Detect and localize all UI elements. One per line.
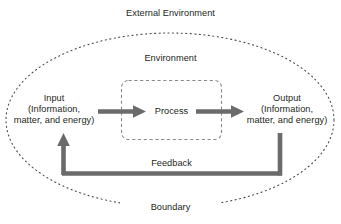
boundary-label: Boundary [120,202,221,213]
input-label-line-2: (Information, [0,104,108,115]
input-label: Input (Information, matter, and energy) [0,93,108,127]
output-label-line-1: Output [233,93,341,104]
input-label-line-1: Input [0,93,108,104]
output-label: Output (Information, matter, and energy) [233,93,341,127]
feedback-label: Feedback [121,158,222,169]
systems-model-diagram: External Environment Environment Input (… [0,0,341,224]
output-label-line-2: (Information, [233,104,341,115]
input-label-line-3: matter, and energy) [0,115,108,126]
output-label-line-3: matter, and energy) [233,115,341,126]
external-environment-label: External Environment [0,8,341,19]
environment-label: Environment [0,53,341,64]
process-label: Process [121,106,222,117]
